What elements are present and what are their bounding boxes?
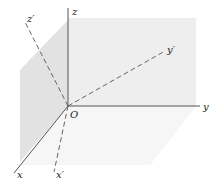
x-prime-label: x′ <box>56 169 65 180</box>
back-plane-yz <box>68 18 196 106</box>
origin-label: O <box>70 109 78 120</box>
z-prime-label: z′ <box>26 13 35 24</box>
y-prime-label: y′ <box>166 44 176 55</box>
z-axis-label: z <box>71 6 78 17</box>
x-axis-label: x <box>17 169 23 180</box>
y-axis-label: y <box>202 101 209 112</box>
coordinate-diagram: z y x z′ y′ x′ O <box>0 0 221 180</box>
